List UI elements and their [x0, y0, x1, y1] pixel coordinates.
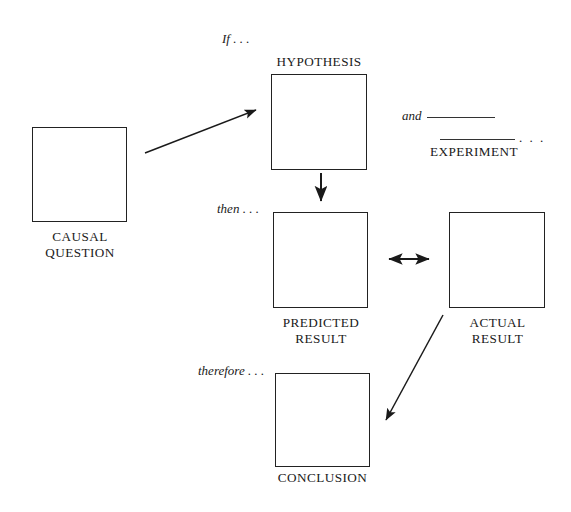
experiment-and-label: and [402, 108, 422, 124]
node-label-predicted-result: PREDICTED RESULT [269, 315, 373, 347]
connector-label-then: then . . . [217, 201, 259, 217]
scientific-method-diagram: HYPOTHESIS CAUSAL QUESTION PREDICTED RES… [0, 0, 571, 512]
arrow-actual-result-to-conclusion [386, 315, 443, 420]
node-label-experiment: EXPERIMENT [430, 144, 518, 160]
experiment-blank-rule-1 [427, 117, 495, 118]
node-box-causal-question [32, 127, 127, 222]
arrow-causal-question-to-hypothesis [145, 110, 256, 153]
experiment-trailing-dots: . . . [519, 130, 545, 146]
experiment-line-1: and [402, 108, 495, 124]
node-box-actual-result [449, 212, 545, 308]
node-box-predicted-result [273, 212, 368, 308]
node-label-hypothesis: HYPOTHESIS [262, 54, 376, 70]
node-label-causal-question: CAUSAL QUESTION [29, 229, 131, 261]
node-box-hypothesis [271, 74, 367, 170]
node-label-actual-result: ACTUAL RESULT [451, 315, 544, 347]
connector-label-therefore: therefore . . . [198, 363, 264, 379]
node-box-conclusion [275, 373, 370, 467]
experiment-blank-rule-2 [440, 139, 515, 140]
node-label-conclusion: CONCLUSION [262, 470, 383, 486]
experiment-group: and . . . EXPERIMENT [402, 108, 562, 170]
connector-label-if: If . . . [222, 31, 249, 47]
